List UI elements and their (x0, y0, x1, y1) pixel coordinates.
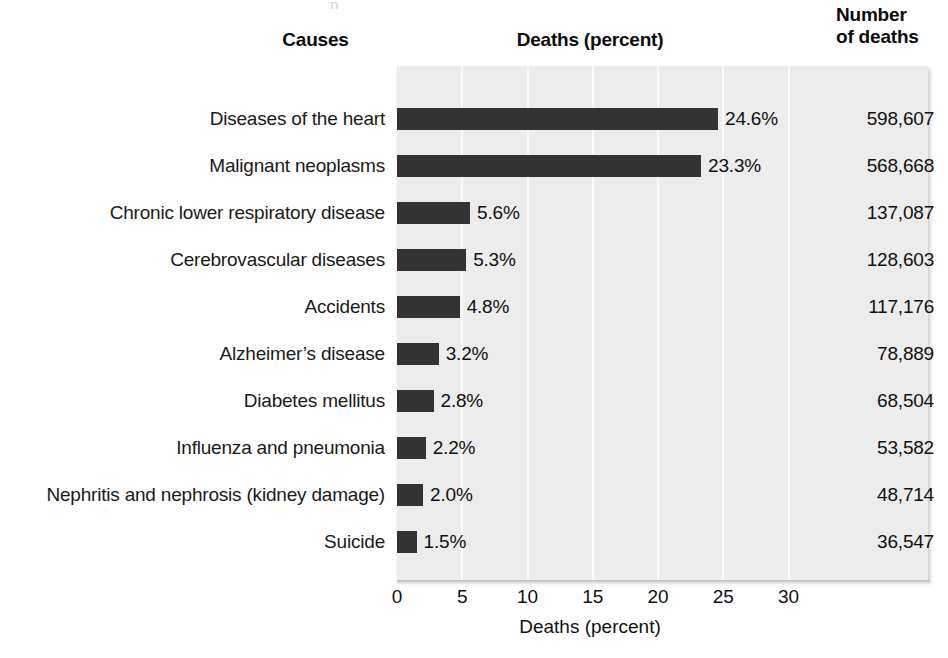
plot-baseline-shadow (397, 580, 930, 585)
chart-row: Suicide1.5%36,547 (0, 520, 948, 567)
deaths-count: 117,176 (830, 296, 934, 318)
deaths-count: 568,668 (830, 155, 934, 177)
column-header-number-of-deaths: Number of deaths (836, 4, 948, 48)
bar (397, 108, 718, 130)
cause-label: Nephritis and nephrosis (kidney damage) (0, 484, 385, 506)
bar-value-label: 4.8% (467, 296, 510, 318)
chart-row: Influenza and pneumonia2.2%53,582 (0, 426, 948, 473)
chart-row: Alzheimer’s disease3.2%78,889 (0, 332, 948, 379)
cause-label: Influenza and pneumonia (0, 437, 385, 459)
cause-label: Diabetes mellitus (0, 390, 385, 412)
column-header-deaths-percent: Deaths (percent) (490, 29, 690, 51)
x-axis-tick-30: 30 (769, 586, 809, 608)
bar (397, 390, 434, 412)
bar (397, 296, 460, 318)
bar-value-label: 2.0% (430, 484, 473, 506)
bar (397, 531, 417, 553)
cause-label: Cerebrovascular diseases (0, 249, 385, 271)
bar (397, 484, 423, 506)
cause-label: Diseases of the heart (0, 108, 385, 130)
bar-value-label: 24.6% (725, 108, 778, 130)
chart-row: Accidents4.8%117,176 (0, 285, 948, 332)
x-axis-title: Deaths (percent) (440, 616, 740, 638)
chart-row: Diseases of the heart24.6%598,607 (0, 97, 948, 144)
column-header-causes: Causes (228, 29, 403, 51)
deaths-count: 36,547 (830, 531, 934, 553)
x-axis-tick-10: 10 (508, 586, 548, 608)
chart-row: Diabetes mellitus2.8%68,504 (0, 379, 948, 426)
bar-value-label: 5.3% (473, 249, 516, 271)
bar-value-label: 5.6% (477, 202, 520, 224)
deaths-count: 48,714 (830, 484, 934, 506)
chart-row: Nephritis and nephrosis (kidney damage)2… (0, 473, 948, 520)
chart-row: Cerebrovascular diseases5.3%128,603 (0, 238, 948, 285)
cause-label: Accidents (0, 296, 385, 318)
deaths-count: 598,607 (830, 108, 934, 130)
deaths-count: 128,603 (830, 249, 934, 271)
bar-value-label: 23.3% (708, 155, 761, 177)
cause-label: Chronic lower respiratory disease (0, 202, 385, 224)
chart-row: Chronic lower respiratory disease5.6%137… (0, 191, 948, 238)
column-header-number-line1: Number (836, 4, 907, 25)
bar-value-label: 1.5% (424, 531, 467, 553)
cause-label: Alzheimer’s disease (0, 343, 385, 365)
bar-value-label: 2.8% (441, 390, 484, 412)
deaths-count: 53,582 (830, 437, 934, 459)
x-axis-tick-20: 20 (638, 586, 678, 608)
x-axis-tick-0: 0 (377, 586, 417, 608)
chart-row: Malignant neoplasms23.3%568,668 (0, 144, 948, 191)
bar (397, 249, 466, 271)
deaths-count: 78,889 (830, 343, 934, 365)
bar-value-label: 3.2% (446, 343, 489, 365)
x-axis-tick-15: 15 (573, 586, 613, 608)
bar-value-label: 2.2% (433, 437, 476, 459)
cause-label: Suicide (0, 531, 385, 553)
bar (397, 437, 426, 459)
x-axis-tick-25: 25 (703, 586, 743, 608)
bar (397, 343, 439, 365)
x-axis-tick-5: 5 (442, 586, 482, 608)
bar (397, 155, 701, 177)
cause-label: Malignant neoplasms (0, 155, 385, 177)
scan-artifact-text: p (330, 0, 750, 9)
deaths-count: 68,504 (830, 390, 934, 412)
deaths-count: 137,087 (830, 202, 934, 224)
column-header-number-line2: of deaths (836, 26, 948, 48)
bar (397, 202, 470, 224)
